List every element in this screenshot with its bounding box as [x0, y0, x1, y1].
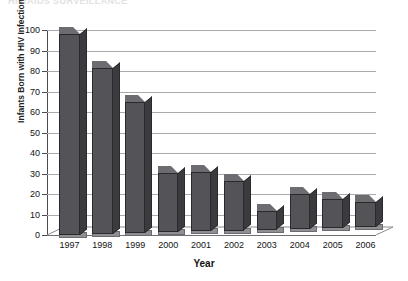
y-tick-label-10: 10: [30, 210, 40, 219]
bar-side-face: [145, 96, 152, 233]
x-tick-label-2003: 2003: [257, 241, 277, 250]
bar-top-face: [257, 204, 277, 211]
bar-2003[interactable]: [257, 204, 277, 229]
x-tick-label-2006: 2006: [356, 241, 376, 250]
bar-1999[interactable]: [125, 95, 145, 233]
bar-top-face: [92, 61, 112, 68]
bar-chart-figure: Infants Born with HIV Infection 01020304…: [0, 0, 408, 281]
bar-top-face: [125, 95, 145, 102]
y-axis-title: Infants Born with HIV Infection: [16, 0, 26, 156]
y-tick-label-20: 20: [30, 190, 40, 199]
bar-front-face: [92, 68, 112, 234]
bar-side-face: [80, 28, 87, 235]
x-axis-labels: 1997199819992000200120022003200420052006: [47, 241, 393, 255]
bar-top-face: [224, 174, 244, 181]
x-tick-label-2004: 2004: [290, 241, 310, 250]
bar-2004[interactable]: [290, 187, 310, 229]
y-tick-0: [42, 235, 47, 236]
y-tick-label-40: 40: [30, 149, 40, 158]
bar-top-face: [355, 195, 375, 202]
bar-side-face: [343, 193, 350, 228]
x-tick-label-2000: 2000: [158, 241, 178, 250]
y-tick-label-90: 90: [30, 46, 40, 55]
y-tick-label-70: 70: [30, 87, 40, 96]
x-tick-label-1997: 1997: [59, 241, 79, 250]
bar-1997[interactable]: [59, 27, 79, 235]
bar-front-face: [322, 199, 342, 228]
bar-2000[interactable]: [158, 166, 178, 232]
bar-front-face: [290, 194, 310, 229]
bar-front-face: [224, 181, 244, 230]
x-tick-label-2005: 2005: [323, 241, 343, 250]
bar-2002[interactable]: [224, 174, 244, 230]
y-tick-label-60: 60: [30, 108, 40, 117]
bar-top-face: [290, 187, 310, 194]
x-tick-label-1999: 1999: [125, 241, 145, 250]
bar-front-face: [355, 202, 375, 227]
plot-area: 0102030405060708090100: [47, 30, 393, 235]
bar-top-face: [322, 192, 342, 199]
bar-2006[interactable]: [355, 195, 375, 227]
bar-1998[interactable]: [92, 61, 112, 234]
bar-side-face: [376, 197, 383, 227]
bar-front-face: [191, 172, 211, 231]
bar-front-face: [59, 34, 79, 235]
x-tick-label-1998: 1998: [92, 241, 112, 250]
bar-side-face: [211, 166, 218, 231]
bar-front-face: [158, 173, 178, 232]
y-tick-label-0: 0: [35, 231, 40, 240]
bar-side-face: [178, 167, 185, 232]
x-tick-label-2001: 2001: [191, 241, 211, 250]
bar-top-face: [59, 27, 79, 34]
x-tick-label-2002: 2002: [224, 241, 244, 250]
bar-2005[interactable]: [322, 192, 342, 228]
y-tick-label-100: 100: [25, 26, 40, 35]
x-axis-title: Year: [0, 258, 408, 269]
y-tick-label-30: 30: [30, 169, 40, 178]
bar-2001[interactable]: [191, 165, 211, 231]
y-tick-label-80: 80: [30, 67, 40, 76]
bar-side-face: [244, 176, 251, 231]
bar-top-face: [191, 165, 211, 172]
y-tick-label-50: 50: [30, 128, 40, 137]
bar-front-face: [125, 102, 145, 233]
bar-side-face: [113, 62, 120, 234]
bar-side-face: [310, 188, 317, 229]
bar-series: [47, 30, 393, 235]
bar-front-face: [257, 211, 277, 229]
bar-top-face: [158, 166, 178, 173]
